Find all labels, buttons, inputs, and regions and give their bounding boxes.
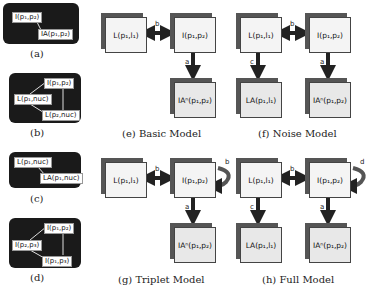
- label-g-b: b: [155, 165, 159, 173]
- cube-g-I: I(p₁,p₂): [170, 158, 216, 198]
- cube-e-IA: IAⁿ(p₁,p₂): [170, 78, 216, 118]
- label-h-b: b: [290, 165, 294, 173]
- label-g-a: a: [185, 203, 189, 211]
- cube-g-L: L(p₁,l₁): [101, 158, 147, 198]
- label-h-c: c: [250, 203, 254, 211]
- cube-e-I: I(p₁,p₂): [170, 13, 216, 53]
- cube-h-I: I(p₁,p₂): [305, 158, 351, 198]
- label-e-a: a: [185, 58, 189, 66]
- label-f-b: b: [290, 20, 294, 28]
- label-f-c: c: [250, 58, 254, 66]
- cube-h-LA: LA(p₁,l₁): [236, 223, 282, 263]
- cube-g-IA: IAⁿ(p₁,p₂): [170, 223, 216, 263]
- cube-h-L: L(p₁,l₁): [236, 158, 282, 198]
- label-f-a: a: [320, 58, 324, 66]
- caption-g: (g) Triplet Model: [118, 274, 205, 285]
- cube-f-LA: LA(p₁,l₁): [236, 78, 282, 118]
- label-h-a: a: [320, 203, 324, 211]
- label-g-self: b: [225, 158, 229, 166]
- cube-f-L: L(p₁,l₁): [236, 13, 282, 53]
- cube-f-IA: IAⁿ(p₁,p₂): [305, 78, 351, 118]
- arrow-g-self: [214, 168, 229, 186]
- label-e-b: b: [155, 20, 159, 28]
- label-h-self: d: [360, 158, 364, 166]
- cube-e-L: L(p₁,l₁): [101, 13, 147, 53]
- arrow-h-self: [349, 168, 364, 186]
- caption-e: (e) Basic Model: [122, 128, 201, 139]
- cube-h-IA: IAⁿ(p₁,p₂): [305, 223, 351, 263]
- caption-f: (f) Noise Model: [258, 128, 337, 139]
- cube-f-I: I(p₁,p₂): [305, 13, 351, 53]
- caption-h: (h) Full Model: [262, 274, 334, 285]
